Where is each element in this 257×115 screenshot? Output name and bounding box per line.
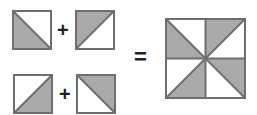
tile-4 — [76, 74, 116, 114]
tile-3 — [13, 74, 53, 114]
plus-sign-top: + — [57, 20, 69, 40]
equals-sign: = — [134, 47, 147, 67]
tile-2 — [75, 10, 115, 50]
result-pinwheel — [165, 18, 246, 99]
tile-1 — [12, 10, 52, 50]
plus-sign-bottom: + — [59, 84, 71, 104]
